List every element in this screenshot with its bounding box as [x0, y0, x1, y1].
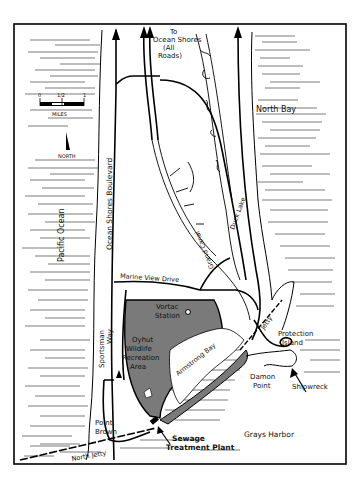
label-point-brown-1: Point [95, 419, 113, 427]
label-damon: Damon [250, 373, 275, 381]
label-area: Area [130, 363, 146, 371]
label-roads: Roads) [158, 52, 182, 60]
label-north-bay: North Bay [256, 105, 296, 114]
label-treatment-plant: Treatment Plant [166, 443, 235, 452]
label-oyhut: Oyhut [132, 336, 154, 344]
label-station: Station [155, 312, 180, 320]
label-ocean-shores: Ocean Shores [153, 36, 202, 44]
label-wildlife: Wildlife [126, 345, 152, 353]
label-grays-harbor: Grays Harbor [244, 430, 295, 439]
label-point: Point [253, 382, 271, 390]
label-shipwreck: Shipwreck [292, 383, 329, 391]
label-way: Way [106, 329, 114, 344]
scale-tick-1: 1 [83, 92, 86, 98]
label-sewage: Sewage [172, 434, 205, 443]
scale-unit: MILES [52, 111, 67, 117]
scale-tick-0: 0 [38, 92, 41, 98]
label-vortac: Vortac [156, 303, 178, 311]
label-point-brown-2: Brown [95, 428, 117, 436]
label-ocean-shores-boulevard: Ocean Shores Boulevard [105, 158, 114, 250]
label-all: (All [163, 44, 174, 52]
label-protection: Protection [278, 330, 313, 338]
north-label: NORTH [58, 153, 76, 159]
vortac-station-marker [186, 310, 191, 315]
label-island: Island [282, 339, 303, 347]
ocean-shores-map: 0 1/2 1 MILES NORTH To Ocean Shores (All… [0, 0, 359, 489]
label-recreation: Recreation [122, 354, 159, 362]
label-sportsman: Sportsman [98, 330, 106, 368]
label-pacific-ocean: Pacific Ocean [57, 208, 66, 262]
label-to: To [169, 28, 177, 36]
scale-tick-half: 1/2 [57, 92, 65, 98]
